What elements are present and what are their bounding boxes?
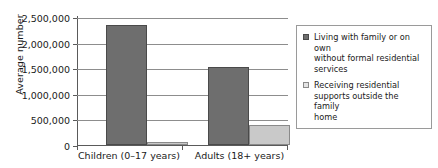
legend-label-line-3: services xyxy=(314,64,426,75)
xtick-label-adults: Adults (18+ years) xyxy=(187,150,292,161)
ytick-mark-500000 xyxy=(73,120,77,121)
ytick-mark-2500000 xyxy=(73,18,77,19)
bar-adults-living-with-family xyxy=(208,67,249,145)
legend-label-line-2: supports outside the family xyxy=(314,91,426,112)
legend-label-living-with-family: Living with family or on own without for… xyxy=(314,32,426,74)
chart-legend: Living with family or on own without for… xyxy=(296,25,432,129)
ytick-label-2500000: 2,500,000 xyxy=(22,13,70,24)
legend-label-residential-supports: Receiving residential supports outside t… xyxy=(314,80,426,122)
legend-label-line-2: without formal residential xyxy=(314,53,426,64)
ytick-mark-2000000 xyxy=(73,44,77,45)
gridline-2500000 xyxy=(77,18,288,19)
bar-children-residential-supports xyxy=(147,142,188,145)
ytick-label-1000000: 1,000,000 xyxy=(22,89,70,100)
ytick-mark-1000000 xyxy=(73,95,77,96)
legend-swatch-icon-living-with-family xyxy=(303,34,309,40)
legend-swatch-icon-residential-supports xyxy=(303,82,309,88)
legend-item-residential-supports: Receiving residential supports outside t… xyxy=(303,80,426,122)
bar-chart: Average number 2,500,000 2,000,000 1,500… xyxy=(0,0,438,168)
ytick-label-2000000: 2,000,000 xyxy=(22,38,70,49)
ytick-mark-1500000 xyxy=(73,69,77,70)
y-axis-line xyxy=(77,16,78,146)
bar-adults-residential-supports xyxy=(249,125,290,145)
ytick-label-500000: 500,000 xyxy=(31,115,70,126)
plot-area: 2,500,000 2,000,000 1,500,000 1,000,000 … xyxy=(77,18,288,146)
ytick-label-1500000: 1,500,000 xyxy=(22,64,70,75)
legend-item-living-with-family: Living with family or on own without for… xyxy=(303,32,426,74)
legend-label-line-1: Living with family or on own xyxy=(314,32,426,53)
xtick-label-children: Children (0–17 years) xyxy=(70,150,188,161)
legend-label-line-3: home xyxy=(314,112,426,123)
legend-label-line-1: Receiving residential xyxy=(314,80,426,91)
bar-children-living-with-family xyxy=(106,25,147,145)
